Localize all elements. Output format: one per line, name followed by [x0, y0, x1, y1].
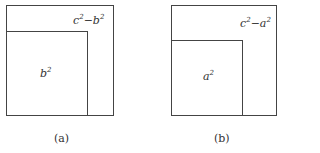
figure-a-caption: (a): [54, 132, 69, 145]
figure-b-caption: (b): [214, 132, 230, 145]
figure-a-inner-label: b2: [40, 66, 52, 80]
figure-b-inner-label: a2: [203, 69, 214, 83]
figure-a-corner-label: c2−b2: [73, 13, 104, 27]
figure-b-corner-label: c2−a2: [240, 16, 271, 30]
